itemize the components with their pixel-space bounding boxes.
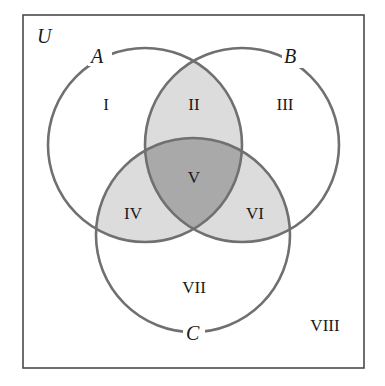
universe-label: U [37, 25, 53, 47]
region-vii-label: VII [182, 278, 206, 297]
region-vi-label: VI [246, 204, 264, 223]
set-b-label: B [284, 45, 296, 67]
venn-diagram: U A B C I II III IV V VI VII VIII [0, 0, 385, 386]
region-iv-label: IV [124, 204, 143, 223]
region-iii-label: III [277, 95, 294, 114]
set-a-label: A [89, 45, 104, 67]
region-viii-label: VIII [310, 316, 340, 335]
region-ii-label: II [188, 95, 200, 114]
region-v-label: V [188, 168, 201, 187]
region-i-label: I [103, 95, 109, 114]
set-c-label: C [186, 322, 200, 344]
